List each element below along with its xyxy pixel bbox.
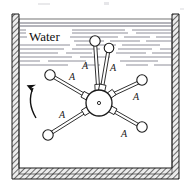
arm-label-A: A [120, 128, 128, 139]
arm-lower-left [43, 107, 92, 140]
arm-label-A: A [81, 60, 89, 71]
arm-end-ball [137, 75, 147, 85]
arm-label-A: A [68, 71, 76, 82]
arm-end-ball [90, 36, 100, 46]
crop-artifacts [38, 2, 184, 10]
arm-upper-right [106, 75, 147, 99]
figure-canvas: Water AAAAAA [0, 0, 192, 193]
arm-lower-right [107, 106, 147, 132]
arm-label-A: A [132, 91, 140, 102]
arm-label-A: A [109, 62, 117, 73]
water-label: Water [29, 29, 60, 44]
rotation-arrow [31, 88, 36, 118]
arm-label-A: A [58, 109, 66, 120]
arm-end-ball [104, 43, 114, 53]
arm-end-ball [45, 70, 55, 80]
arm-end-ball [43, 130, 53, 140]
paddle-wheel-arms [43, 36, 147, 140]
arm-end-ball [137, 122, 147, 132]
arm-upper-left [45, 70, 91, 100]
paddle-wheel-figure: Water AAAAAA [0, 0, 192, 193]
paddle-wheel-hub [86, 90, 112, 116]
